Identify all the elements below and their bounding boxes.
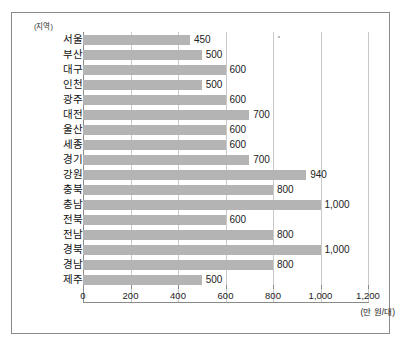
category-label: 충북 [23,182,83,197]
bar [83,260,273,270]
bar-row: 세종600 [12,137,389,152]
category-label: 세종 [23,137,83,152]
x-axis-tick-label: 200 [123,290,139,301]
plot-area: (지역) 02004006008001,0001,200 서울450부산500대… [12,13,389,333]
y-axis-title: (지역) [34,20,53,31]
bar [83,200,321,210]
category-label: 광주 [23,92,83,107]
bar-value-label: 800 [273,227,294,242]
x-axis-tick-label: 0 [80,290,85,301]
cropped-text: · · · · · · · · · · · [6,0,127,3]
bar [83,230,273,240]
bar-row: 경남800 [12,257,389,272]
bar-value-label: 700 [249,152,270,167]
bar [83,155,249,165]
bar-row: 부산500 [12,47,389,62]
category-label: 전북 [23,212,83,227]
bar-value-label: 600 [226,137,247,152]
bar-row: 충남1,000 [12,197,389,212]
cropped-text-strip: · · · · · · · · · · · [0,0,402,9]
bar [83,215,226,225]
bar-row: 전남800 [12,227,389,242]
bar [83,245,321,255]
category-label: 강원 [23,167,83,182]
x-axis-line [83,302,369,303]
bar [83,80,202,90]
bar [83,140,226,150]
x-axis-tick-label: 1,000 [309,290,333,301]
x-axis-tick-label: 800 [265,290,281,301]
bar-row: 경기700 [12,152,389,167]
bar-value-label: 600 [226,62,247,77]
bar-value-label: 800 [273,257,294,272]
bar-row: 전북600 [12,212,389,227]
x-axis-tick-label: 400 [170,290,186,301]
bar-value-label: 600 [226,92,247,107]
bar [83,35,190,45]
bar-row: 인천500 [12,77,389,92]
bar-row: 충북800 [12,182,389,197]
category-label: 울산 [23,122,83,137]
bar-value-label: 940 [306,167,327,182]
bar [83,95,226,105]
category-label: 경북 [23,242,83,257]
category-label: 전남 [23,227,83,242]
bar-value-label: 700 [249,107,270,122]
bar [83,275,202,285]
category-label: 대전 [23,107,83,122]
x-axis-tick-label: 600 [218,290,234,301]
category-label: 경기 [23,152,83,167]
bar-value-label: 1,000 [321,242,350,257]
category-label: 부산 [23,47,83,62]
bar-value-label: 600 [226,212,247,227]
bar-value-label: 1,000 [321,197,350,212]
bar-value-label: 600 [226,122,247,137]
x-axis-unit-label: (만 원/대) [361,305,395,317]
bar-value-label: 500 [202,272,223,287]
category-label: 경남 [23,257,83,272]
category-label: 인천 [23,77,83,92]
bar-row: 울산600 [12,122,389,137]
chart-frame: (지역) 02004006008001,0001,200 서울450부산500대… [11,12,390,334]
bar [83,65,226,75]
bar-value-label: 450 [190,32,211,47]
bar-row: 대전700 [12,107,389,122]
bar [83,110,249,120]
bar [83,125,226,135]
bar-row: 광주600 [12,92,389,107]
category-label: 제주 [23,272,83,287]
bar [83,185,273,195]
bar-value-label: 800 [273,182,294,197]
bar-row: 대구600 [12,62,389,77]
bar-value-label: 500 [202,47,223,62]
bar-row: 제주500 [12,272,389,287]
bar [83,50,202,60]
bar [83,170,306,180]
bar-value-label: 500 [202,77,223,92]
x-axis-tick-label: 1,200 [356,290,380,301]
category-label: 서울 [23,32,83,47]
category-label: 충남 [23,197,83,212]
category-label: 대구 [23,62,83,77]
bar-row: 경북1,000 [12,242,389,257]
bar-row: 서울450 [12,32,389,47]
bar-row: 강원940 [12,167,389,182]
chart-page: · · · · · · · · · · · (지역) 0200400600800… [0,0,402,347]
